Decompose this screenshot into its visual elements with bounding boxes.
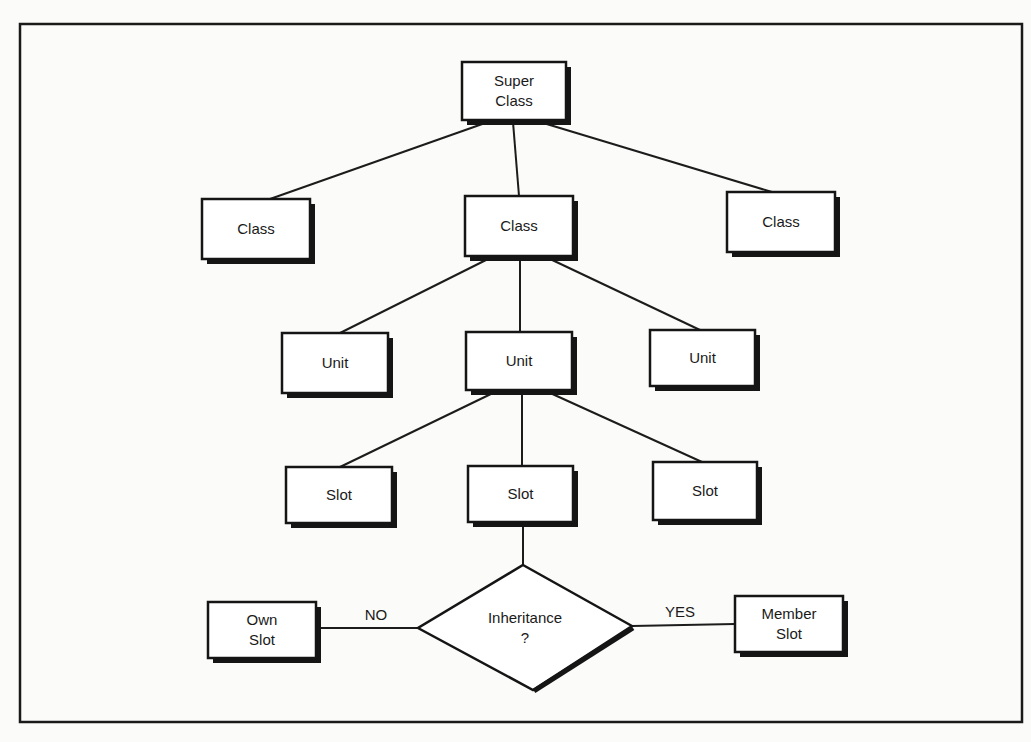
node-label: Own: [247, 611, 278, 628]
edge-super-class-to-class-right: [540, 122, 772, 192]
node-unit-middle: Unit: [466, 332, 577, 395]
node-label: Class: [762, 213, 800, 230]
node-label: Inheritance: [488, 609, 562, 626]
node-class-middle: Class: [465, 196, 578, 261]
edge-inheritance-decision-to-member-slot: [632, 624, 735, 626]
node-unit-right: Unit: [650, 330, 760, 391]
node-label: Member: [761, 605, 816, 622]
node-label: Slot: [326, 486, 353, 503]
inheritance-diagram: SuperClassClassClassClassUnitUnitUnitSlo…: [0, 0, 1031, 742]
node-label: Unit: [689, 349, 717, 366]
node-label: Super: [494, 72, 534, 89]
node-super-class: SuperClass: [462, 62, 571, 125]
node-label: Slot: [508, 485, 535, 502]
edge-class-middle-to-unit-right: [548, 258, 700, 330]
node-inheritance-decision: Inheritance?: [418, 565, 633, 691]
edge-super-class-to-class-middle: [513, 122, 519, 196]
node-member-slot: MemberSlot: [735, 596, 848, 657]
node-unit-left: Unit: [282, 333, 393, 398]
node-label: ?: [521, 629, 529, 646]
node-class-left: Class: [202, 199, 315, 264]
node-label: Slot: [692, 482, 719, 499]
nodes-layer: SuperClassClassClassClassUnitUnitUnitSlo…: [202, 62, 848, 691]
decision-diamond: [418, 565, 632, 690]
node-label: Unit: [322, 354, 350, 371]
node-label: Class: [237, 220, 275, 237]
box-body: [462, 62, 566, 120]
node-label: Slot: [249, 631, 276, 648]
node-own-slot: OwnSlot: [208, 602, 321, 663]
node-slot-middle: Slot: [468, 466, 578, 527]
node-slot-right: Slot: [653, 462, 762, 525]
node-label: Class: [495, 92, 533, 109]
edge-class-middle-to-unit-left: [340, 258, 490, 333]
node-label: Unit: [506, 352, 534, 369]
edge-super-class-to-class-left: [270, 122, 488, 199]
node-class-right: Class: [727, 192, 840, 257]
edge-unit-middle-to-slot-right: [548, 392, 702, 462]
node-slot-left: Slot: [286, 467, 397, 528]
edge-label-no: NO: [365, 606, 388, 623]
edge-unit-middle-to-slot-left: [340, 392, 495, 467]
node-label: Class: [500, 217, 538, 234]
node-label: Slot: [776, 625, 803, 642]
edge-label-yes: YES: [665, 603, 695, 620]
